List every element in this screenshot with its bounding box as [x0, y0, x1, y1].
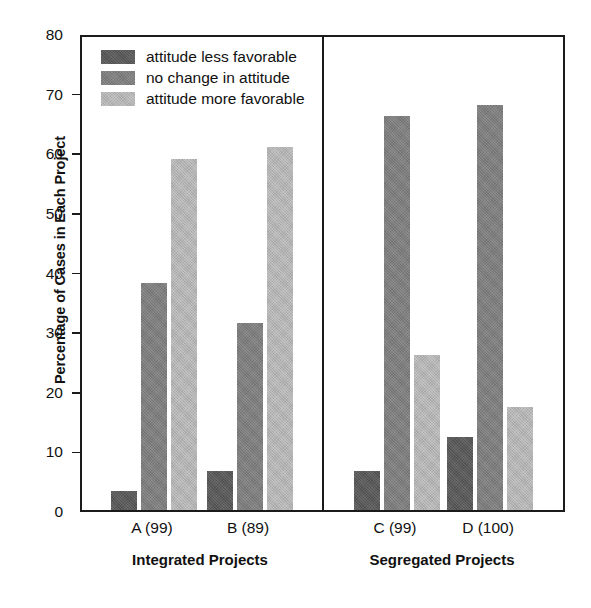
y-tick-label: 40	[3, 265, 63, 283]
legend-swatch-icon	[101, 50, 135, 64]
bar-a-more	[171, 159, 197, 510]
bar-d-nochange	[477, 105, 503, 510]
y-tick-label: 20	[3, 384, 63, 402]
bar-chart-figure: Percentage of Cases in Each Project 0102…	[0, 0, 591, 608]
legend-swatch-icon	[101, 71, 135, 85]
legend-item-label: no change in attitude	[146, 70, 290, 86]
y-tick-label: 10	[3, 443, 63, 461]
group-label: Integrated Projects	[80, 551, 320, 568]
legend-item-label: attitude less favorable	[146, 49, 297, 65]
group-label: Segregated Projects	[322, 551, 562, 568]
x-tick-label: B (89)	[188, 519, 308, 537]
x-tick-label: D (100)	[428, 519, 548, 537]
bar-b-more	[267, 147, 293, 510]
bar-d-more	[507, 407, 533, 510]
bar-c-nochange	[384, 116, 410, 510]
legend-item: no change in attitude	[101, 68, 305, 87]
bar-b-less	[207, 471, 233, 510]
legend-item-label: attitude more favorable	[146, 91, 305, 107]
y-tick-label: 80	[3, 26, 63, 44]
bar-c-more	[414, 355, 440, 510]
y-tick-label: 30	[3, 324, 63, 342]
bar-c-less	[354, 471, 380, 510]
bar-a-less	[111, 491, 137, 510]
legend: attitude less favorableno change in atti…	[101, 47, 305, 108]
y-tick-label: 50	[3, 205, 63, 223]
y-tick-label: 70	[3, 86, 63, 104]
y-tick-label: 0	[3, 503, 63, 521]
bar-a-nochange	[141, 283, 167, 510]
legend-swatch-icon	[101, 92, 135, 106]
bar-b-nochange	[237, 323, 263, 510]
bar-d-less	[447, 437, 473, 510]
y-tick-label: 60	[3, 145, 63, 163]
legend-item: attitude more favorable	[101, 89, 305, 108]
legend-item: attitude less favorable	[101, 47, 305, 66]
